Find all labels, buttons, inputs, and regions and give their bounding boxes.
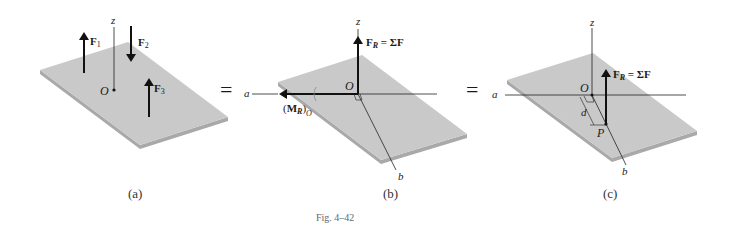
z-label-b: z	[355, 15, 361, 27]
panel-caption-a: (a)	[128, 186, 142, 201]
panel-c	[505, 28, 697, 165]
origin-label-c: O	[580, 81, 589, 95]
point-label-p: P	[596, 126, 605, 140]
panel-a	[40, 26, 228, 149]
equals-sign-1: =	[220, 77, 232, 102]
origin-label-b: O	[345, 79, 354, 93]
z-label-c: z	[589, 16, 595, 28]
resultant-force-label-c: FR = ΣF	[613, 68, 651, 82]
panel-b	[252, 29, 467, 170]
figure-canvas: = = z O F1 F2 F3 z a b O FR = ΣF (MR)O z…	[0, 0, 733, 226]
b-label-b: b	[398, 170, 404, 182]
origin-point-a	[112, 88, 115, 91]
distance-label: d	[581, 106, 587, 118]
a-label-b: a	[244, 87, 250, 99]
b-label-c: b	[622, 165, 628, 177]
panel-caption-b: (b)	[383, 186, 398, 201]
force-label-f2: F2	[138, 36, 149, 50]
force-label-f1: F1	[90, 35, 101, 49]
equals-sign-2: =	[466, 77, 478, 102]
origin-label-a: O	[100, 84, 109, 98]
z-label-a: z	[110, 14, 116, 26]
panel-caption-c: (c)	[603, 186, 617, 201]
figure-caption: Fig. 4–42	[316, 212, 354, 223]
resultant-force-label-b: FR = ΣF	[366, 36, 404, 50]
a-label-c: a	[492, 88, 498, 100]
